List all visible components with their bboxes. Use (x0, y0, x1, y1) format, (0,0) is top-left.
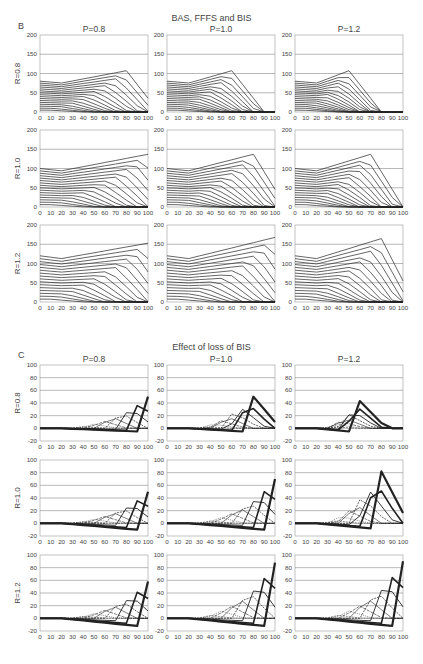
x-tick-label: 30 (69, 443, 76, 450)
y-tick-label: 50 (285, 279, 292, 286)
y-tick-label: 40 (157, 399, 164, 406)
x-tick-label: 50 (91, 443, 98, 450)
x-tick-label: 100 (270, 633, 281, 640)
x-tick-label: 100 (270, 209, 281, 216)
x-tick-label: 0 (38, 304, 42, 311)
y-tick-label: -20 (28, 437, 38, 444)
x-tick-label: 0 (293, 538, 297, 545)
x-tick-label: 80 (378, 443, 385, 450)
y-tick-label: 80 (285, 374, 292, 381)
x-tick-label: 100 (270, 114, 281, 121)
x-tick-label: 60 (101, 114, 108, 121)
y-tick-label: 80 (30, 564, 37, 571)
x-tick-label: 50 (346, 114, 353, 121)
x-tick-label: 60 (228, 633, 235, 640)
x-tick-label: 60 (356, 209, 363, 216)
x-tick-label: 40 (207, 538, 214, 545)
y-tick-label: 0 (289, 203, 293, 210)
y-tick-label: 100 (154, 551, 165, 558)
row-label: R=0.8 (13, 62, 22, 84)
x-tick-label: 90 (134, 114, 141, 121)
x-tick-label: 40 (207, 114, 214, 121)
x-tick-label: 40 (80, 633, 87, 640)
column-title: P=1.0 (210, 354, 233, 364)
panel-C-R=0.8-P=1.2: -200204060801000102030405060708090100P=1… (282, 354, 409, 450)
x-tick-label: 80 (123, 538, 130, 545)
x-tick-label: 50 (91, 304, 98, 311)
x-tick-label: 60 (101, 538, 108, 545)
x-tick-label: 40 (207, 209, 214, 216)
x-tick-label: 90 (389, 443, 396, 450)
y-tick-label: 100 (27, 165, 38, 172)
y-tick-label: 150 (27, 50, 38, 57)
x-tick-label: 70 (112, 304, 119, 311)
row-label: R=1.0 (13, 157, 22, 179)
panel-B-R=0.8-P=1.2: 0501001502000102030405060708090100P=1.2 (282, 24, 409, 121)
y-tick-label: 150 (282, 240, 293, 247)
x-tick-label: 40 (335, 443, 342, 450)
x-tick-label: 70 (367, 209, 374, 216)
y-tick-label: 80 (285, 564, 292, 571)
row-label: R=1.2 (13, 582, 22, 604)
x-tick-label: 70 (367, 114, 374, 121)
x-tick-label: 20 (58, 538, 65, 545)
y-tick-label: 0 (161, 519, 165, 526)
x-tick-label: 10 (47, 443, 54, 450)
x-tick-label: 10 (302, 209, 309, 216)
x-tick-label: 0 (38, 209, 42, 216)
y-tick-label: 100 (27, 551, 38, 558)
y-tick-label: 150 (27, 145, 38, 152)
x-tick-label: 70 (367, 443, 374, 450)
column-title: P=0.8 (83, 354, 106, 364)
x-tick-label: 70 (112, 538, 119, 545)
y-tick-label: 40 (285, 589, 292, 596)
figure-canvas: 0501001502000102030405060708090100P=0.8R… (0, 0, 423, 664)
y-tick-label: 0 (289, 298, 293, 305)
x-tick-label: 50 (91, 538, 98, 545)
x-tick-label: 20 (313, 538, 320, 545)
x-tick-label: 10 (47, 209, 54, 216)
x-tick-label: 30 (196, 633, 203, 640)
y-tick-label: 0 (161, 424, 165, 431)
x-tick-label: 90 (389, 114, 396, 121)
x-tick-label: 30 (196, 443, 203, 450)
x-tick-label: 30 (69, 209, 76, 216)
x-tick-label: 100 (143, 443, 154, 450)
x-tick-label: 10 (174, 633, 181, 640)
x-tick-label: 0 (293, 209, 297, 216)
x-tick-label: 10 (302, 304, 309, 311)
y-tick-label: 200 (282, 31, 293, 38)
y-tick-label: 80 (157, 469, 164, 476)
x-tick-label: 70 (112, 633, 119, 640)
x-tick-label: 20 (185, 209, 192, 216)
x-tick-label: 20 (185, 633, 192, 640)
y-tick-label: 100 (282, 361, 293, 368)
y-tick-label: 60 (157, 481, 164, 488)
x-tick-label: 40 (335, 633, 342, 640)
x-tick-label: 20 (185, 114, 192, 121)
x-tick-label: 20 (313, 443, 320, 450)
x-tick-label: 40 (335, 304, 342, 311)
x-tick-label: 0 (165, 209, 169, 216)
x-tick-label: 70 (239, 304, 246, 311)
x-tick-label: 30 (324, 114, 331, 121)
x-tick-label: 50 (218, 538, 225, 545)
x-tick-label: 30 (69, 114, 76, 121)
x-tick-label: 50 (218, 443, 225, 450)
panel-C-R=0.8-P=1.0: -200204060801000102030405060708090100P=1… (154, 354, 281, 450)
x-tick-label: 50 (91, 209, 98, 216)
x-tick-label: 100 (398, 209, 409, 216)
x-tick-label: 60 (228, 304, 235, 311)
x-tick-label: 90 (134, 538, 141, 545)
x-tick-label: 10 (302, 443, 309, 450)
x-tick-label: 40 (207, 443, 214, 450)
y-tick-label: 0 (34, 298, 38, 305)
y-tick-label: 200 (154, 126, 165, 133)
y-tick-label: 150 (154, 50, 165, 57)
x-tick-label: 50 (218, 114, 225, 121)
x-tick-label: 80 (250, 443, 257, 450)
x-tick-label: 30 (324, 538, 331, 545)
x-tick-label: 80 (378, 114, 385, 121)
x-tick-label: 90 (134, 633, 141, 640)
x-tick-label: 90 (134, 209, 141, 216)
